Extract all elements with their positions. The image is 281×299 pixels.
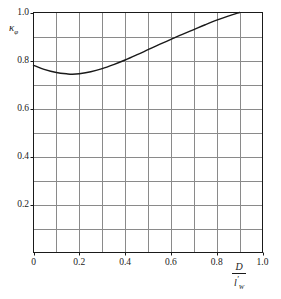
y-tick-label: 0.8 [5, 55, 29, 65]
data-curve-kappa-phi [34, 13, 240, 75]
x-axis-denominator: l′W [232, 275, 246, 291]
figure-container: κφ D l′W 0.20.40.60.81.0 00.20.40.60.81.… [0, 0, 281, 299]
x-axis-numerator: D [232, 262, 246, 273]
x-tick-label: 0.4 [110, 257, 140, 267]
y-tick-label: 0.4 [5, 151, 29, 161]
y-axis-subscript: φ [14, 28, 18, 36]
y-tick-label: 1.0 [5, 7, 29, 17]
x-axis-denominator-subscript: W [239, 283, 244, 290]
x-tick-label: 1.0 [248, 257, 278, 267]
y-tick-label: 0.6 [5, 103, 29, 113]
x-tick-label: 0.2 [64, 257, 94, 267]
chart-plot-area [0, 0, 281, 299]
y-axis-title: κφ [9, 22, 18, 36]
x-axis-title: D l′W [232, 262, 246, 291]
x-tick-label: 0.6 [156, 257, 186, 267]
x-tick-label: 0 [19, 257, 49, 267]
y-tick-label: 0.2 [5, 199, 29, 209]
x-tick-label: 0.8 [202, 257, 232, 267]
minor-gridlines [34, 13, 263, 253]
